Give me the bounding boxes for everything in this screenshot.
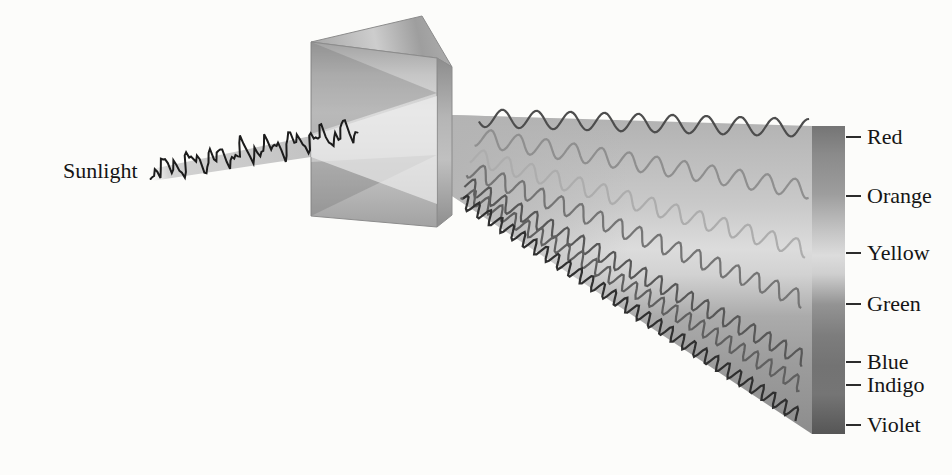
prism-right-face — [437, 58, 452, 227]
prism — [311, 16, 452, 227]
diagram-canvas: Sunlight RedOrangeYellowGreenBlueIndigoV… — [0, 0, 952, 475]
spectrum-label-blue: Blue — [867, 349, 909, 374]
spectrum-label-indigo: Indigo — [867, 372, 924, 397]
spectrum-ticks: RedOrangeYellowGreenBlueIndigoViolet — [846, 124, 932, 437]
spectrum-bar — [812, 126, 845, 434]
spectrum-label-orange: Orange — [867, 183, 932, 208]
sunlight-label: Sunlight — [63, 158, 138, 183]
dispersion-diagram: Sunlight RedOrangeYellowGreenBlueIndigoV… — [0, 0, 952, 475]
spectrum-label-green: Green — [867, 291, 921, 316]
spectrum-label-red: Red — [867, 124, 902, 149]
spectrum-label-yellow: Yellow — [867, 240, 930, 265]
spectrum-label-violet: Violet — [867, 412, 921, 437]
